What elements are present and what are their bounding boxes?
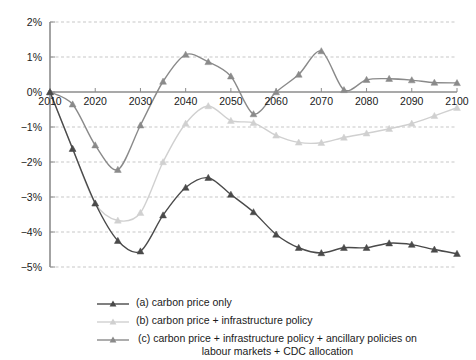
series-layer [47,48,461,257]
x-axis-tick-labels: 2010202020302040205020602070208020902100 [38,95,469,107]
legend-item-b[interactable]: (b) carbon price + infrastructure policy [0,314,476,329]
y-tick-label: −3% [21,191,42,203]
series-c [47,48,461,173]
x-tick-label: 2100 [445,95,469,107]
y-tick-label: −5% [21,261,42,273]
legend-swatch-icon [96,333,130,347]
x-tick-label: 2090 [400,95,424,107]
y-tick-label: 2% [27,16,42,28]
gridlines [50,22,457,267]
data-point-marker [273,132,280,138]
x-tick-label: 2010 [38,95,62,107]
chart-figure: 2%1%0%−1%−2%−3%−4%−5% 201020202030204020… [0,0,476,360]
y-tick-label: −2% [21,156,42,168]
x-tick-label: 2060 [264,95,288,107]
x-tick-label: 2030 [129,95,153,107]
chart-legend: (a) carbon price only(b) carbon price + … [0,296,476,360]
y-axis-tick-labels: 2%1%0%−1%−2%−3%−4%−5% [21,16,42,273]
data-point-marker [227,117,234,123]
legend-label: (c) carbon price + infrastructure policy… [136,332,417,357]
legend-label: (b) carbon price + infrastructure policy [136,314,313,327]
x-tick-label: 2080 [355,95,379,107]
legend-item-a[interactable]: (a) carbon price only [0,296,476,311]
legend-swatch-icon [96,297,130,311]
series-b [47,89,461,224]
y-tick-label: 1% [27,51,42,63]
y-tick-label: −1% [21,121,42,133]
x-tick-label: 2040 [174,95,198,107]
x-tick-label: 2050 [219,95,243,107]
axis-lines [50,22,457,267]
data-point-marker [69,145,76,151]
legend-item-c[interactable]: (c) carbon price + infrastructure policy… [0,332,476,357]
x-tick-label: 2020 [84,95,108,107]
data-point-marker [205,103,212,109]
data-point-marker [92,200,99,206]
y-tick-label: −4% [21,226,42,238]
legend-label: (a) carbon price only [136,296,232,309]
data-point-marker [137,122,144,128]
x-tick-label: 2070 [310,95,334,107]
data-point-marker [205,59,212,65]
legend-swatch-icon [96,315,130,329]
